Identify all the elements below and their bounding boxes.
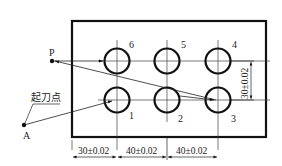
dim-40-first: 40±0.02	[126, 146, 158, 156]
holes	[105, 49, 231, 113]
path-A-to-1	[24, 101, 112, 125]
hole-label-1: 1	[129, 110, 134, 121]
dim-30-vertical: 30±0.02	[240, 67, 250, 99]
hole-label-5: 5	[181, 39, 186, 50]
dim-30-horizontal: 30±0.02	[78, 146, 110, 156]
dim-40-second: 40±0.02	[176, 146, 208, 156]
drilling-diagram: 6 5 4 1 2 3 P A 起刀点 30±0.02 40±0.02 40±0…	[0, 0, 282, 166]
path-3-to-P	[55, 61, 216, 100]
hole-label-2: 2	[178, 113, 183, 124]
point-A-marker	[22, 123, 26, 127]
start-point-label: 起刀点	[31, 92, 61, 103]
hole-label-3: 3	[231, 113, 236, 124]
hole-label-4: 4	[232, 39, 237, 50]
point-A-label: A	[23, 130, 31, 141]
hole-label-6: 6	[129, 39, 134, 50]
point-P-label: P	[49, 47, 55, 58]
point-P-marker	[50, 59, 54, 63]
